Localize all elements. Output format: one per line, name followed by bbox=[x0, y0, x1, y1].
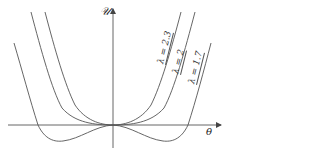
y-axis-label: 𝒰 bbox=[100, 5, 110, 18]
x-axis-label: θ bbox=[206, 126, 212, 137]
